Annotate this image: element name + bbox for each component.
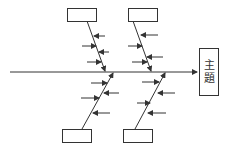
head-label-line-1: 主: [204, 59, 215, 72]
fishbone-diagram: [0, 0, 226, 156]
sub-cause-arrows: [81, 35, 175, 113]
cause-box-top-left[interactable]: [68, 9, 97, 22]
head-label: 主 題: [199, 48, 219, 96]
head-label-line-2: 題: [204, 72, 215, 85]
bone-bottom-left: [82, 73, 113, 129]
cause-box-top-right[interactable]: [129, 9, 158, 22]
bone-bottom-right: [135, 73, 165, 129]
cause-box-bottom-right[interactable]: [124, 130, 153, 143]
cause-box-bottom-left[interactable]: [63, 130, 92, 143]
